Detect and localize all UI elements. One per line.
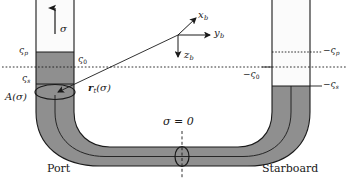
zeta-s-right-label: −ςs — [323, 80, 339, 90]
starboard-label: Starboard — [262, 163, 318, 174]
starboard-tube-empty — [272, 0, 310, 86]
axis-yb-label: yb — [214, 28, 224, 39]
axis-xb-arrow — [178, 18, 196, 35]
position-vector-label: rt(σ) — [88, 83, 111, 94]
port-label: Port — [47, 163, 70, 174]
zeta-s-left-label: ςs — [22, 74, 30, 84]
body-axes-triad — [178, 18, 210, 57]
sigma-axis-label: σ — [60, 24, 67, 34]
cross-section-area-label: A(σ) — [5, 92, 27, 102]
diagram-canvas — [0, 0, 349, 182]
tank-fluid-region — [36, 52, 310, 166]
axis-zb-label: zb — [184, 50, 194, 61]
axis-xb-label: xb — [198, 10, 208, 21]
position-vector-arrow — [58, 35, 178, 92]
zeta-p-left-label: ςp — [19, 46, 28, 56]
zeta-p-right-label: −ςp — [323, 46, 340, 56]
figure-root: σ ςp ς0 ςs A(σ) rt(σ) xb yb zb −ςp −ς0 −… — [0, 0, 349, 182]
zeta-0-right-label: −ς0 — [243, 70, 260, 80]
sigma-zero-label: σ = 0 — [163, 116, 194, 127]
zeta-0-left-label: ς0 — [78, 55, 87, 65]
